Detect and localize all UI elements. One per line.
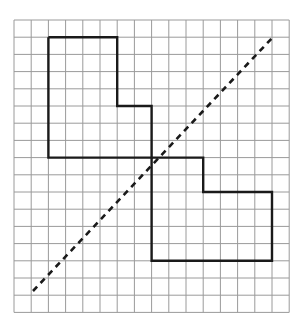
reflection-grid-diagram — [0, 0, 297, 321]
dashed-mirror-line — [33, 37, 273, 291]
